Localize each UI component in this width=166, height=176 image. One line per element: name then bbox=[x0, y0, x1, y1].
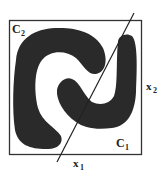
svg-text:C: C bbox=[12, 22, 21, 36]
label-x1-axis: x 1 bbox=[73, 157, 84, 172]
label-c2: C 2 bbox=[12, 22, 25, 38]
svg-text:2: 2 bbox=[153, 86, 157, 95]
label-c1: C 1 bbox=[116, 136, 129, 152]
svg-text:1: 1 bbox=[125, 143, 129, 152]
svg-text:C: C bbox=[116, 136, 125, 150]
label-x2-axis: x 2 bbox=[146, 80, 157, 95]
svg-text:2: 2 bbox=[21, 29, 25, 38]
svg-text:x: x bbox=[73, 157, 79, 169]
diagram-canvas: C 2 C 1 x 2 x 1 bbox=[0, 0, 166, 176]
svg-text:1: 1 bbox=[80, 163, 84, 172]
svg-text:x: x bbox=[146, 80, 152, 92]
